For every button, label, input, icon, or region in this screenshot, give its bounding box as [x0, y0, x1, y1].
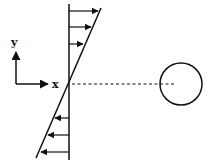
- coordinate-axes: y x: [10, 36, 59, 91]
- x-axis-label: x: [52, 78, 59, 91]
- y-axis-label: y: [10, 36, 18, 49]
- velocity-profile: [36, 4, 101, 160]
- shear-flow-diagram: y x: [0, 0, 211, 165]
